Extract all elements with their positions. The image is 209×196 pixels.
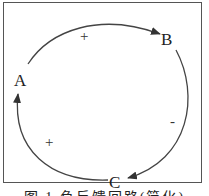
node-b: B (161, 30, 172, 49)
polarity-bc: - (170, 113, 175, 129)
edge-a-to-b (28, 24, 160, 64)
polarity-ca: + (45, 134, 53, 150)
polarity-ab: + (80, 28, 88, 44)
causal-loop-diagram: A B C + - + (0, 0, 209, 196)
figure-caption: 图 1 负反馈回路(简化) (0, 186, 209, 196)
node-a: A (14, 71, 27, 90)
edge-c-to-a (17, 94, 108, 180)
edge-b-to-c (128, 50, 188, 178)
